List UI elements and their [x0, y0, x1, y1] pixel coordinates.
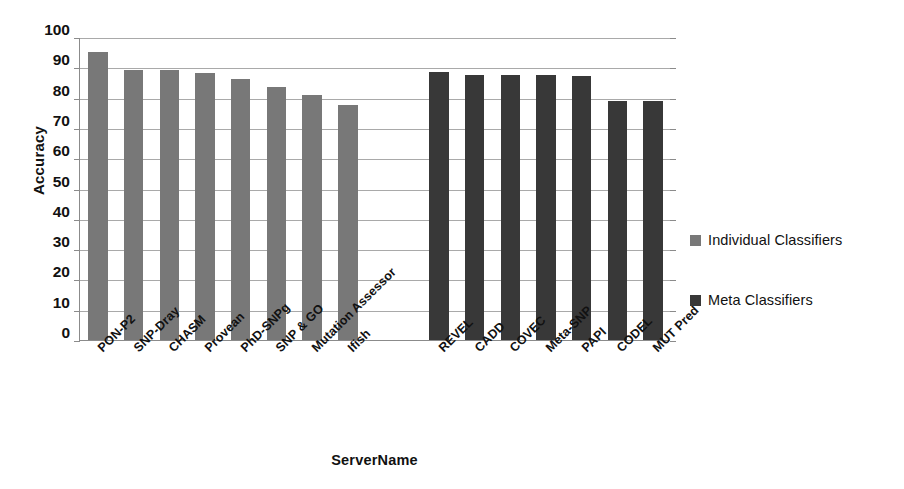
- bar: [429, 72, 448, 340]
- bar: [195, 73, 214, 340]
- y-tick-label: 100: [24, 22, 70, 38]
- bar: [501, 75, 520, 340]
- y-tick-label: 80: [24, 83, 70, 99]
- y-tick-label: 10: [24, 295, 70, 311]
- y-tickmark-right: [670, 280, 676, 281]
- y-tick-label: 50: [24, 174, 70, 190]
- legend-entry: Individual Classifiers: [690, 232, 900, 248]
- y-tickmark-right: [670, 311, 676, 312]
- y-tickmark-right: [670, 129, 676, 130]
- bar: [124, 70, 143, 340]
- legend-entry: Meta Classifiers: [690, 292, 900, 308]
- y-tick-label: 40: [24, 204, 70, 220]
- y-tick-label: 60: [24, 143, 70, 159]
- bar: [608, 101, 627, 340]
- bar: [536, 75, 555, 340]
- y-tickmark-right: [670, 38, 676, 39]
- legend-label: Individual Classifiers: [708, 232, 842, 248]
- y-tick-label: 20: [24, 265, 70, 281]
- y-tick-label: 0: [24, 325, 70, 341]
- bar-chart: Accuracy 1009080706050403020100 PON-P2SN…: [0, 0, 904, 489]
- y-tickmark-right: [670, 190, 676, 191]
- y-tickmark-right: [670, 220, 676, 221]
- x-axis-title: ServerName: [79, 452, 670, 468]
- y-tick-label: 30: [24, 234, 70, 250]
- bar: [231, 79, 250, 340]
- y-tickmark-right: [670, 68, 676, 69]
- bar: [88, 52, 107, 340]
- legend-swatch-icon: [690, 295, 701, 306]
- y-tickmark-right: [670, 159, 676, 160]
- y-axis-tick-labels: 1009080706050403020100: [24, 30, 70, 341]
- y-tick-label: 90: [24, 53, 70, 69]
- bar: [643, 101, 662, 340]
- legend: Individual ClassifiersMeta Classifiers: [690, 232, 900, 352]
- bar: [465, 75, 484, 340]
- x-axis-category-labels: PON-P2SNP-DrayCHASMProveanPhD-SNPgSNP & …: [79, 341, 670, 461]
- y-tickmark-right: [670, 99, 676, 100]
- bar: [160, 70, 179, 340]
- bar: [572, 76, 591, 340]
- y-tickmark-right: [670, 250, 676, 251]
- legend-swatch-icon: [690, 235, 701, 246]
- y-tick-label: 70: [24, 113, 70, 129]
- legend-label: Meta Classifiers: [708, 292, 813, 308]
